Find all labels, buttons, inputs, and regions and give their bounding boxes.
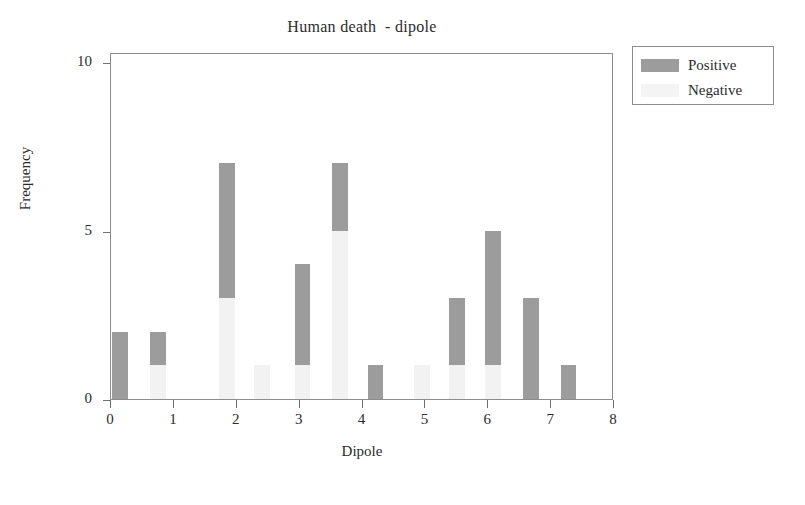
y-axis: Frequency xyxy=(0,0,110,505)
x-tick-label: 8 xyxy=(598,411,628,428)
y-tick-label: 10 xyxy=(52,53,92,70)
bar-segment-positive xyxy=(150,332,166,366)
bar-segment-negative xyxy=(295,365,311,399)
bar xyxy=(332,163,348,399)
x-tick-mark xyxy=(236,400,237,408)
x-tick-mark xyxy=(362,400,363,408)
chart-figure: Human death - dipole Frequency 0510 0123… xyxy=(0,0,805,505)
legend-label: Negative xyxy=(688,83,742,98)
y-tick-mark xyxy=(103,232,110,233)
x-tick-mark xyxy=(550,400,551,408)
bar-segment-positive xyxy=(295,264,311,365)
x-tick-mark xyxy=(299,400,300,408)
y-tick-mark xyxy=(103,400,110,401)
bar xyxy=(254,365,270,399)
bar-segment-positive xyxy=(368,365,384,399)
x-tick-label: 7 xyxy=(535,411,565,428)
x-tick-label: 5 xyxy=(409,411,439,428)
bar-segment-negative xyxy=(332,231,348,399)
x-tick-label: 0 xyxy=(95,411,125,428)
x-tick-label: 3 xyxy=(284,411,314,428)
x-tick-label: 1 xyxy=(158,411,188,428)
bar-segment-positive xyxy=(561,365,577,399)
bar xyxy=(368,365,384,399)
x-tick-label: 2 xyxy=(221,411,251,428)
bar-segment-positive xyxy=(332,163,348,230)
x-tick-mark xyxy=(613,400,614,408)
legend-swatch-positive xyxy=(641,59,679,72)
y-tick-label: 0 xyxy=(52,390,92,407)
chart-title: Human death - dipole xyxy=(110,18,614,36)
bar xyxy=(112,332,128,399)
bar xyxy=(523,298,539,399)
bar xyxy=(561,365,577,399)
legend-swatch-negative xyxy=(641,84,679,97)
x-axis-label: Dipole xyxy=(110,443,614,460)
y-tick-mark xyxy=(103,63,110,64)
y-tick-label: 5 xyxy=(52,222,92,239)
bar-segment-positive xyxy=(112,332,128,399)
bar-segment-negative xyxy=(449,365,465,399)
legend-item: Negative xyxy=(641,78,765,103)
x-tick-label: 6 xyxy=(472,411,502,428)
bar-segment-negative xyxy=(254,365,270,399)
bar-segment-negative xyxy=(150,365,166,399)
bar xyxy=(150,332,166,399)
bar xyxy=(295,264,311,399)
bar-segment-positive xyxy=(449,298,465,365)
bar xyxy=(449,298,465,399)
plot-frame xyxy=(110,53,613,400)
bar xyxy=(414,365,430,399)
chart-legend: PositiveNegative xyxy=(632,46,774,105)
y-axis-label: Frequency xyxy=(17,114,34,244)
x-tick-label: 4 xyxy=(347,411,377,428)
legend-label: Positive xyxy=(688,58,736,73)
bar-segment-negative xyxy=(485,365,501,399)
bar-segment-positive xyxy=(523,298,539,399)
bar xyxy=(219,163,235,399)
x-tick-mark xyxy=(424,400,425,408)
legend-item: Positive xyxy=(641,53,765,78)
x-tick-mark xyxy=(487,400,488,408)
bar xyxy=(485,231,501,399)
bar-segment-negative xyxy=(219,298,235,399)
plot-area xyxy=(111,54,612,399)
bar-segment-negative xyxy=(414,365,430,399)
x-tick-mark xyxy=(110,400,111,408)
x-tick-mark xyxy=(173,400,174,408)
bar-segment-positive xyxy=(219,163,235,298)
bar-segment-positive xyxy=(485,231,501,366)
